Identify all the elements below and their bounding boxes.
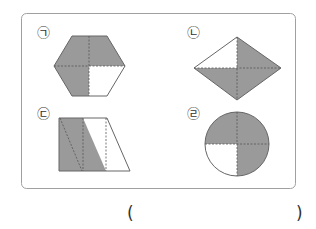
- answer-paren-open: (: [127, 205, 134, 222]
- label-giyeok: ㉠: [37, 26, 50, 39]
- label-nieun: ㉡: [187, 26, 200, 39]
- answer-blank[interactable]: [140, 205, 290, 223]
- label-digeut: ㉢: [37, 107, 50, 120]
- answer-paren-close: ): [296, 205, 303, 222]
- label-rieul: ㉣: [187, 107, 200, 120]
- circle-figure: [205, 112, 269, 176]
